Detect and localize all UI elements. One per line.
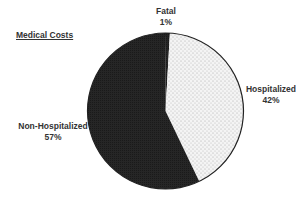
label-fatal: Fatal 1%: [148, 6, 184, 28]
label-fatal-name: Fatal: [148, 6, 184, 17]
label-hospitalized-name: Hospitalized: [242, 84, 300, 95]
label-non-hospitalized: Non-Hospitalized 57%: [14, 121, 92, 143]
label-non-hospitalized-pct: 57%: [14, 132, 92, 143]
label-hospitalized-pct: 42%: [242, 95, 300, 106]
label-fatal-pct: 1%: [148, 17, 184, 28]
chart-title: Medical Costs: [16, 30, 73, 40]
label-hospitalized: Hospitalized 42%: [242, 84, 300, 106]
label-non-hospitalized-name: Non-Hospitalized: [14, 121, 92, 132]
